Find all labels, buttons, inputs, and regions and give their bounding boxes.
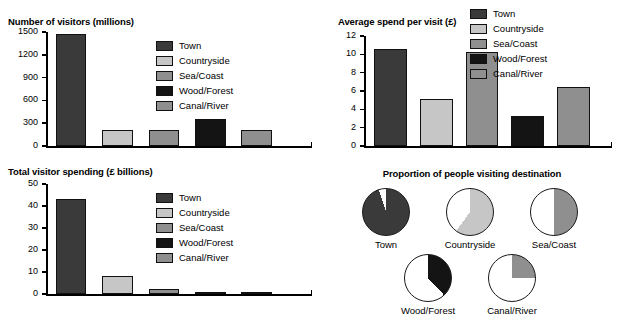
x-axis-end-cap — [611, 142, 613, 147]
y-axis-tick — [42, 77, 46, 79]
legend-swatch-icon — [470, 54, 487, 64]
x-axis-end-cap — [311, 290, 313, 295]
legend-swatch-icon — [156, 193, 173, 203]
y-axis-tick-label: 600 — [4, 95, 38, 104]
y-axis-tick — [42, 227, 46, 229]
legend-item-sea-coast: Sea/Coast — [156, 220, 233, 235]
bar-canal-river — [241, 292, 272, 294]
x-axis-end-cap — [311, 142, 313, 147]
y-axis-tick — [42, 145, 46, 147]
bar-canal-river — [241, 130, 272, 146]
bar-town — [56, 34, 87, 146]
y-axis-tick — [360, 109, 364, 111]
pie-canal-river: Canal/River — [480, 254, 544, 316]
legend-item-countryside: Countryside — [156, 53, 233, 68]
legend-swatch-icon — [156, 71, 173, 81]
legend-item-sea-coast: Sea/Coast — [156, 68, 233, 83]
legend-item-label: Sea/Coast — [493, 39, 537, 49]
y-axis-tick — [42, 100, 46, 102]
pie-sea-coast: Sea/Coast — [522, 188, 586, 250]
chart-total-visitor-spending: Total visitor spending (£ billions) 0102… — [8, 166, 318, 316]
bar-canal-river — [557, 87, 590, 146]
legend-swatch-icon — [470, 9, 487, 19]
legend-swatch-icon — [156, 41, 173, 51]
pie-slice-graphic — [362, 188, 410, 236]
legend-item-town: Town — [470, 6, 547, 21]
y-axis-tick-label: 30 — [4, 223, 38, 232]
bar-countryside — [102, 276, 133, 294]
y-axis-tick — [360, 54, 364, 56]
pie-slice-graphic — [488, 254, 536, 302]
pie-countryside: Countryside — [438, 188, 502, 250]
legend-item-label: Wood/Forest — [179, 238, 233, 248]
bar-town — [374, 49, 407, 146]
chart-title-visitors: Number of visitors (millions) — [8, 16, 318, 27]
legend-item-label: Sea/Coast — [179, 223, 223, 233]
y-axis-tick-label: 900 — [4, 73, 38, 82]
chart-title-spending: Total visitor spending (£ billions) — [8, 166, 318, 177]
legend-swatch-icon — [470, 69, 487, 79]
legend-swatch-icon — [156, 208, 173, 218]
y-axis-tick — [360, 35, 364, 37]
bar-wood-forest — [511, 116, 544, 146]
bar-wood-forest — [195, 292, 226, 294]
chart-title-proportion: Proportion of people visiting destinatio… — [338, 168, 606, 179]
y-axis-tick-label: 0 — [322, 141, 356, 150]
legend-item-label: Wood/Forest — [493, 54, 547, 64]
y-axis-tick-label: 4 — [322, 104, 356, 113]
legend-item-label: Countryside — [179, 56, 230, 66]
legend-avgspend: TownCountrysideSea/CoastWood/ForestCanal… — [470, 6, 547, 81]
y-axis-tick — [360, 72, 364, 74]
y-axis-line — [364, 36, 366, 146]
x-axis-line — [364, 146, 612, 148]
legend-item-wood-forest: Wood/Forest — [156, 235, 233, 250]
y-axis-tick — [42, 249, 46, 251]
legend-item-label: Sea/Coast — [179, 71, 223, 81]
y-axis-tick-label: 1200 — [4, 50, 38, 59]
bar-wood-forest — [195, 119, 226, 146]
y-axis-tick-label: 6 — [322, 86, 356, 95]
legend-spending: TownCountrysideSea/CoastWood/ForestCanal… — [156, 190, 233, 265]
y-axis-tick — [42, 271, 46, 273]
y-axis-tick — [360, 127, 364, 129]
legend-swatch-icon — [470, 39, 487, 49]
y-axis-tick — [42, 54, 46, 56]
y-axis-tick — [42, 31, 46, 33]
legend-visitors: TownCountrysideSea/CoastWood/ForestCanal… — [156, 38, 233, 113]
y-axis-tick-label: 300 — [4, 118, 38, 127]
pie-town: Town — [354, 188, 418, 250]
legend-swatch-icon — [156, 86, 173, 96]
legend-item-town: Town — [156, 38, 233, 53]
pie-label: Wood/Forest — [396, 305, 460, 316]
legend-item-wood-forest: Wood/Forest — [156, 83, 233, 98]
legend-swatch-icon — [156, 223, 173, 233]
legend-item-label: Countryside — [179, 208, 230, 218]
chart-proportion-of-people-visiting: Proportion of people visiting destinatio… — [338, 168, 616, 318]
legend-item-label: Town — [493, 9, 515, 19]
y-axis-tick — [42, 205, 46, 207]
legend-item-label: Canal/River — [179, 101, 229, 111]
bar-sea-coast — [149, 289, 180, 294]
pie-label: Town — [354, 239, 418, 250]
y-axis-tick — [42, 183, 46, 185]
x-axis-line — [46, 294, 312, 296]
legend-swatch-icon — [156, 101, 173, 111]
legend-item-label: Countryside — [493, 24, 544, 34]
y-axis-tick-label: 10 — [322, 49, 356, 58]
pie-label: Countryside — [438, 239, 502, 250]
y-axis-tick-label: 8 — [322, 68, 356, 77]
y-axis-line — [46, 184, 48, 294]
legend-item-canal-river: Canal/River — [156, 250, 233, 265]
y-axis-tick-label: 1500 — [4, 27, 38, 36]
y-axis-tick-label: 50 — [4, 179, 38, 188]
pie-label: Sea/Coast — [522, 239, 586, 250]
legend-item-label: Town — [179, 193, 201, 203]
y-axis-tick-label: 12 — [322, 31, 356, 40]
chart-number-of-visitors: Number of visitors (millions) 0300600900… — [8, 16, 318, 164]
legend-item-label: Canal/River — [493, 69, 543, 79]
y-axis-tick-label: 2 — [322, 123, 356, 132]
y-axis-tick — [42, 122, 46, 124]
bar-countryside — [420, 99, 453, 146]
legend-swatch-icon — [156, 56, 173, 66]
pie-slice-graphic — [446, 188, 494, 236]
